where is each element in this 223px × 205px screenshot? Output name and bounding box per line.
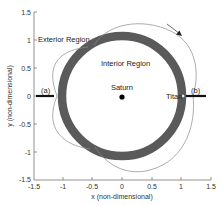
ytick: 0: [27, 93, 31, 100]
saturn-label: Saturn: [111, 83, 133, 92]
xtick: -1.5: [28, 183, 40, 190]
xtick: 0.5: [147, 183, 157, 190]
interior-region-label: Interior Region: [101, 59, 150, 68]
ytick: -0.5: [19, 121, 31, 128]
saturn-point: [119, 94, 124, 99]
titan-label: Titan: [166, 92, 182, 101]
exterior-region-label: Exterior Region: [38, 35, 90, 44]
xtick: 1.5: [206, 183, 216, 190]
xtick: -0.5: [86, 183, 98, 190]
ytick: -1: [25, 149, 31, 156]
ytick: -1.5: [19, 176, 31, 183]
y-tick-labels: 1.5 1 0.5 0 -0.5 -1 -1.5: [19, 9, 31, 184]
x-axis-label: x (non-dimensional): [91, 193, 152, 201]
ytick: 0.5: [21, 65, 31, 72]
xtick: 1: [179, 183, 183, 190]
x-tick-labels: -1.5 -1 -0.5 0 0.5 1 1.5: [28, 183, 216, 190]
chart: 1.5 1 0.5 0 -0.5 -1 -1.5 -1.5 -1 -0.5 0 …: [0, 0, 223, 205]
xtick: -1: [60, 183, 66, 190]
y-axis-label: y (non-dimensional): [6, 65, 14, 126]
xtick: 0: [120, 183, 124, 190]
ytick: 1: [27, 37, 31, 44]
ytick: 1.5: [21, 9, 31, 16]
label-b: (b): [191, 86, 201, 95]
label-a: (a): [41, 86, 51, 95]
